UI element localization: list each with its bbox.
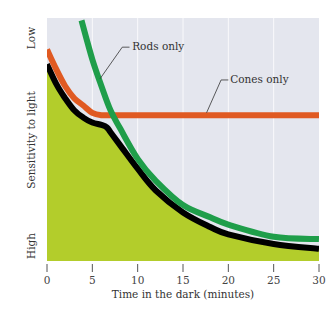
rods-label: Rods only	[132, 40, 184, 52]
x-tick-label: 0	[44, 274, 51, 286]
x-tick-label: 25	[267, 274, 280, 286]
x-tick-label: 10	[131, 274, 144, 286]
x-tick-label: 15	[176, 274, 189, 286]
y-axis-title: Sensitivity to light	[25, 90, 37, 188]
x-tick-label: 5	[89, 274, 96, 286]
y-axis-high-label: High	[25, 233, 37, 259]
x-tick-label: 20	[222, 274, 235, 286]
y-axis-low-label: Low	[25, 27, 37, 49]
cones-label: Cones only	[230, 73, 289, 85]
dark-adaptation-chart: Rods only Cones only 051015202530 Low Se…	[0, 0, 333, 313]
x-axis-title: Time in the dark (minutes)	[112, 288, 254, 300]
x-axis: 051015202530	[44, 264, 326, 286]
x-tick-label: 30	[312, 274, 325, 286]
plot-area	[47, 18, 319, 261]
